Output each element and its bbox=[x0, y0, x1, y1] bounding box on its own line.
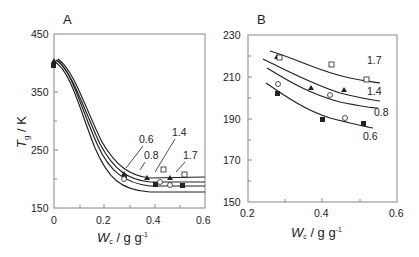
label-a-0.8: 0.8 bbox=[144, 149, 159, 161]
figure: A 450 350 250 150 0 0.2 0.4 0.6 Tg / K W… bbox=[0, 0, 419, 257]
xtick-0.6: 0.6 bbox=[196, 214, 211, 226]
panel-a-markers bbox=[51, 58, 187, 188]
label-a-1.4: 1.4 bbox=[172, 126, 187, 138]
panel-b: B 230 210 190 170 150 0.2 0.4 0.6 Wc / g… bbox=[223, 12, 404, 240]
xtick-0.4: 0.4 bbox=[314, 207, 329, 219]
xtick-0.2: 0.2 bbox=[240, 207, 255, 219]
ytick-150: 150 bbox=[31, 202, 49, 214]
ytick-210: 210 bbox=[223, 71, 241, 83]
xtick-0.4: 0.4 bbox=[146, 214, 161, 226]
ytick-150: 150 bbox=[223, 196, 241, 208]
ytick-170: 170 bbox=[223, 154, 241, 166]
panel-a: A 450 350 250 150 0 0.2 0.4 0.6 Tg / K W… bbox=[14, 12, 211, 245]
label-b-1.4: 1.4 bbox=[367, 85, 382, 97]
ytick-250: 250 bbox=[31, 144, 49, 156]
panel-a-label: A bbox=[63, 12, 72, 27]
xtick-0.2: 0.2 bbox=[96, 214, 111, 226]
svg-text:Tg / K: Tg / K bbox=[14, 116, 31, 148]
label-a-1.7: 1.7 bbox=[183, 149, 198, 161]
panel-a-xlabel: Wc / g g-1 bbox=[97, 230, 148, 245]
ytick-350: 350 bbox=[31, 86, 49, 98]
xtick-0: 0 bbox=[51, 214, 57, 226]
panel-b-ticks bbox=[248, 56, 360, 202]
curve-b-1.7 bbox=[270, 51, 380, 83]
ytick-450: 450 bbox=[31, 28, 49, 40]
label-a-0.6: 0.6 bbox=[139, 133, 154, 145]
label-b-0.8: 0.8 bbox=[374, 106, 389, 118]
curve-0.8 bbox=[57, 60, 205, 186]
curve-1.4 bbox=[56, 60, 205, 182]
label-b-0.6: 0.6 bbox=[363, 130, 378, 142]
panel-b-label: B bbox=[257, 12, 266, 27]
panel-b-curves bbox=[263, 51, 380, 128]
ytick-230: 230 bbox=[223, 29, 241, 41]
panel-a-ylabel: Tg / K bbox=[14, 116, 31, 148]
curve-b-0.8 bbox=[267, 68, 378, 108]
ytick-190: 190 bbox=[223, 113, 241, 125]
label-b-1.7: 1.7 bbox=[367, 54, 382, 66]
panel-b-xlabel: Wc / g g-1 bbox=[291, 225, 342, 240]
xtick-0.6: 0.6 bbox=[389, 207, 404, 219]
